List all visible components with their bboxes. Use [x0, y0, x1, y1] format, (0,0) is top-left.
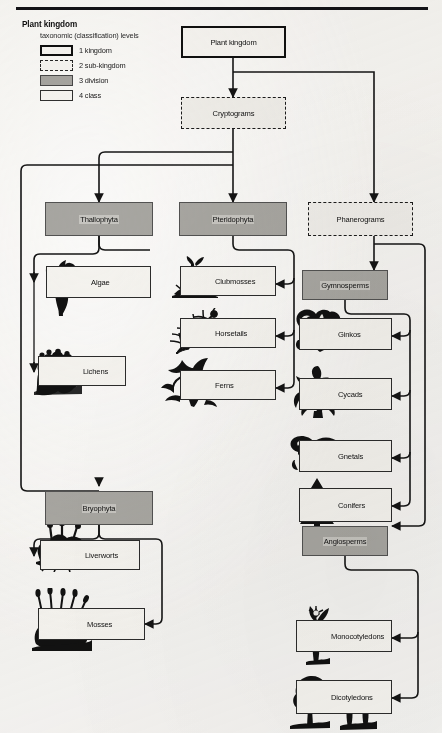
diagram-page: Plant kingdom taxonomic (classification)…	[0, 0, 442, 733]
node-conifers[interactable]: Conifers	[299, 488, 392, 522]
node-horsetails[interactable]: Horsetails	[180, 318, 276, 348]
node-label-cryptograms: Cryptograms	[213, 109, 255, 118]
node-label-liverworts: Liverworts	[85, 551, 118, 560]
node-label-ferns: Ferns	[215, 381, 234, 390]
node-gymnosperms[interactable]: Gymnosperms	[302, 270, 388, 300]
node-label-horsetails: Horsetails	[215, 329, 247, 338]
node-label-gymnosperms: Gymnosperms	[320, 281, 370, 290]
node-label-plant-kingdom: Plant kingdom	[210, 38, 256, 47]
node-algae[interactable]: Algae	[46, 266, 151, 298]
node-label-thallophyta: Thallophyta	[79, 215, 119, 224]
node-label-bryophyta: Bryophyta	[82, 504, 117, 513]
node-cycads[interactable]: Cycads	[299, 378, 392, 410]
node-label-mosses: Mosses	[87, 620, 112, 629]
node-dicotyledons[interactable]: Dicotyledons	[296, 680, 392, 714]
node-plant-kingdom[interactable]: Plant kingdom	[181, 26, 286, 58]
node-thallophyta[interactable]: Thallophyta	[45, 202, 153, 236]
node-label-phanerograms: Phanerograms	[336, 215, 384, 224]
node-ginkos[interactable]: Ginkos	[299, 318, 392, 350]
node-label-monocotyledons: Monocotyledons	[331, 632, 384, 641]
node-mosses[interactable]: Mosses	[38, 608, 145, 640]
node-clubmosses[interactable]: Clubmosses	[180, 266, 276, 296]
node-label-ginkos: Ginkos	[338, 330, 361, 339]
node-label-lichens: Lichens	[83, 367, 108, 376]
node-lichens[interactable]: Lichens	[38, 356, 126, 386]
node-liverworts[interactable]: Liverworts	[40, 540, 140, 570]
node-pteridophyta[interactable]: Pteridophyta	[179, 202, 287, 236]
node-label-clubmosses: Clubmosses	[215, 277, 255, 286]
node-label-gnetals: Gnetals	[338, 452, 363, 461]
node-label-dicotyledons: Dicotyledons	[331, 693, 373, 702]
node-monocotyledons[interactable]: Monocotyledons	[296, 620, 392, 652]
node-bryophyta[interactable]: Bryophyta	[45, 491, 153, 525]
node-label-algae: Algae	[91, 278, 110, 287]
node-angiosperms[interactable]: Angiosperms	[302, 526, 388, 556]
node-ferns[interactable]: Ferns	[180, 370, 276, 400]
node-phanerograms[interactable]: Phanerograms	[308, 202, 413, 236]
node-label-angiosperms: Angiosperms	[323, 537, 368, 546]
node-label-cycads: Cycads	[338, 390, 362, 399]
node-label-conifers: Conifers	[338, 501, 365, 510]
node-label-pteridophyta: Pteridophyta	[212, 215, 255, 224]
node-gnetals[interactable]: Gnetals	[299, 440, 392, 472]
node-cryptograms[interactable]: Cryptograms	[181, 97, 286, 129]
